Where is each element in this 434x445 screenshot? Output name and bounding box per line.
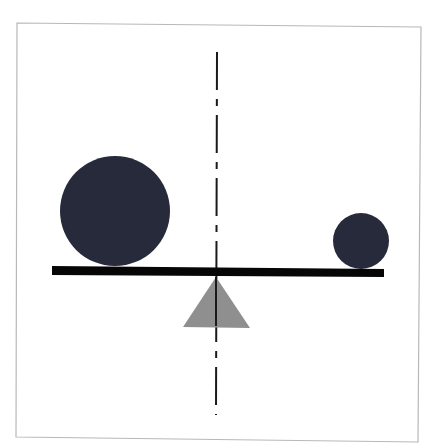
balance-diagram: [0, 0, 434, 445]
small-mass-circle: [333, 213, 389, 269]
large-mass-circle: [60, 156, 170, 266]
